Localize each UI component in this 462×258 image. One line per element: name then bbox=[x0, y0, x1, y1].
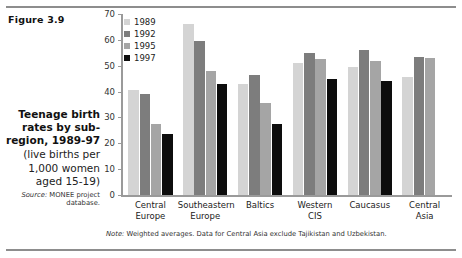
legend-item[interactable]: 1989 bbox=[124, 16, 184, 28]
y-axis-tick-label: 0 bbox=[110, 190, 115, 200]
bar bbox=[414, 57, 425, 195]
y-axis-tick-label: 20 bbox=[104, 138, 115, 148]
legend-item[interactable]: 1995 bbox=[124, 40, 184, 52]
legend-label: 1997 bbox=[134, 53, 156, 63]
chart-legend: 1989199219951997 bbox=[124, 16, 184, 64]
y-axis-tick-label: 10 bbox=[104, 164, 115, 174]
caption-column: Figure 3.9 bbox=[8, 14, 108, 25]
bar bbox=[304, 53, 315, 195]
x-axis-category-line: Central bbox=[123, 200, 178, 211]
chart-note: Note: Weighted averages. Data for Centra… bbox=[106, 230, 387, 238]
y-axis-tick-label: 70 bbox=[104, 9, 115, 19]
x-axis-category-label: Caucasus bbox=[342, 200, 397, 211]
x-axis-category-line: Europe bbox=[178, 211, 233, 222]
x-axis-category-label: CentralAsia bbox=[397, 200, 452, 221]
legend-item[interactable]: 1992 bbox=[124, 28, 184, 40]
bar bbox=[370, 61, 381, 195]
note-label: Note: bbox=[106, 230, 124, 238]
bar-group bbox=[178, 14, 233, 195]
bar-group bbox=[342, 14, 397, 195]
x-axis-category-line: CIS bbox=[288, 211, 343, 222]
figure-number-label: Figure 3.9 bbox=[8, 14, 108, 25]
bar bbox=[348, 67, 359, 195]
bar bbox=[293, 63, 304, 195]
source-text: MONEE project database. bbox=[49, 191, 100, 207]
legend-swatch-icon bbox=[124, 31, 130, 37]
bar-group bbox=[288, 14, 343, 195]
note-text: Weighted averages. Data for Central Asia… bbox=[127, 230, 387, 238]
bar bbox=[194, 41, 205, 195]
x-axis-labels: CentralEuropeSoutheasternEuropeBalticsWe… bbox=[123, 200, 452, 226]
bar bbox=[359, 50, 370, 195]
bar bbox=[249, 75, 260, 195]
bar bbox=[238, 84, 249, 195]
legend-label: 1989 bbox=[134, 17, 156, 27]
x-axis-category-line: Central bbox=[397, 200, 452, 211]
y-axis-tick-label: 60 bbox=[104, 35, 115, 45]
chart-plot-area: 010203040506070 CentralEuropeSoutheaster… bbox=[96, 14, 454, 230]
figure-caption-title: Teenage birth rates by sub-region, 1989-… bbox=[0, 108, 100, 147]
x-axis-category-line: Europe bbox=[123, 211, 178, 222]
bar bbox=[260, 103, 271, 195]
y-axis-tick-label: 30 bbox=[104, 112, 115, 122]
bar bbox=[206, 71, 217, 195]
bar bbox=[272, 124, 283, 195]
bar bbox=[151, 124, 162, 195]
y-axis-labels: 010203040506070 bbox=[96, 14, 118, 196]
x-axis-category-label: SoutheasternEurope bbox=[178, 200, 233, 221]
x-axis-line bbox=[121, 195, 452, 197]
x-axis-category-line: Western bbox=[288, 200, 343, 211]
bar bbox=[140, 94, 151, 195]
bar bbox=[327, 79, 338, 195]
bar-group bbox=[233, 14, 288, 195]
x-axis-category-label: WesternCIS bbox=[288, 200, 343, 221]
bar bbox=[183, 24, 194, 195]
figure-source: Source: MONEE project database. bbox=[0, 191, 100, 207]
legend-label: 1995 bbox=[134, 41, 156, 51]
x-axis-category-line: Asia bbox=[397, 211, 452, 222]
bar bbox=[315, 59, 326, 195]
bottom-rule bbox=[6, 249, 456, 251]
legend-label: 1992 bbox=[134, 29, 156, 39]
figure-caption-subtitle: (live births per 1,000 women aged 15-19) bbox=[0, 148, 100, 189]
figure-container: Figure 3.9 Teenage birth rates by sub-re… bbox=[0, 0, 462, 258]
legend-swatch-icon bbox=[124, 43, 130, 49]
top-rule bbox=[6, 6, 456, 8]
x-axis-category-line: Southeastern bbox=[178, 200, 233, 211]
x-axis-category-line: Caucasus bbox=[342, 200, 397, 211]
bar bbox=[402, 77, 413, 195]
legend-item[interactable]: 1997 bbox=[124, 52, 184, 64]
bar bbox=[128, 90, 139, 195]
x-axis-category-line: Baltics bbox=[233, 200, 288, 211]
legend-swatch-icon bbox=[124, 19, 130, 25]
caption-block: Teenage birth rates by sub-region, 1989-… bbox=[0, 108, 100, 207]
y-axis-tick-label: 50 bbox=[104, 61, 115, 71]
y-axis-tick-label: 40 bbox=[104, 87, 115, 97]
legend-swatch-icon bbox=[124, 55, 130, 61]
bar bbox=[425, 58, 436, 195]
x-axis-category-label: Baltics bbox=[233, 200, 288, 211]
x-axis-category-label: CentralEurope bbox=[123, 200, 178, 221]
bar bbox=[162, 134, 173, 195]
bar bbox=[217, 84, 228, 195]
source-label: Source: bbox=[21, 191, 47, 199]
bar bbox=[381, 81, 392, 195]
bar-group bbox=[397, 14, 452, 195]
